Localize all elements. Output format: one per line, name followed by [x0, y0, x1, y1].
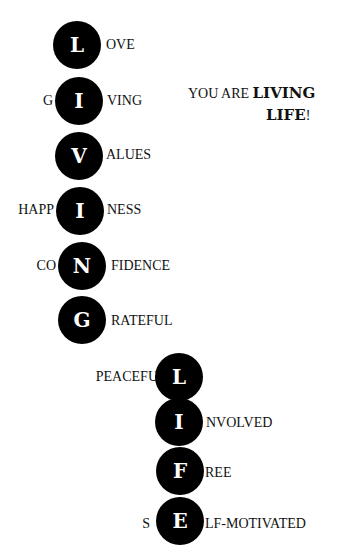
title-prefix: YOU ARE: [188, 86, 253, 101]
word-suffix: NVOLVED: [206, 415, 272, 431]
word-suffix: ALUES: [106, 147, 151, 163]
letter-circle: L: [53, 21, 101, 69]
word-suffix: FIDENCE: [111, 258, 170, 274]
letter-circle: N: [58, 242, 106, 290]
word-prefix: HAPP: [18, 202, 54, 218]
letter-circle: L: [155, 353, 203, 401]
letter-circle: G: [58, 296, 106, 344]
letter-circle: I: [56, 187, 104, 235]
title-suffix: !: [306, 108, 311, 123]
letter-circle: I: [155, 398, 203, 446]
word-suffix: VING: [107, 93, 142, 109]
word-prefix: PEACEFU: [96, 369, 158, 385]
word-suffix: NESS: [107, 202, 141, 218]
word-suffix: RATEFUL: [111, 313, 172, 329]
letter-circle: E: [156, 497, 204, 545]
letter-circle: F: [156, 447, 204, 495]
word-suffix: REE: [205, 465, 231, 481]
title-life: LIFE: [266, 106, 306, 124]
word-prefix: G: [43, 93, 53, 109]
letter-circle: I: [55, 77, 103, 125]
word-prefix: S: [142, 516, 150, 532]
title-line-2: LIFE!: [266, 106, 310, 124]
title-line-1: YOU ARE LIVING: [188, 84, 315, 102]
word-suffix: LF-MOTIVATED: [205, 516, 306, 532]
word-prefix: CO: [37, 258, 56, 274]
word-suffix: OVE: [106, 37, 135, 53]
letter-circle: V: [55, 132, 103, 180]
title-living: LIVING: [253, 84, 316, 102]
